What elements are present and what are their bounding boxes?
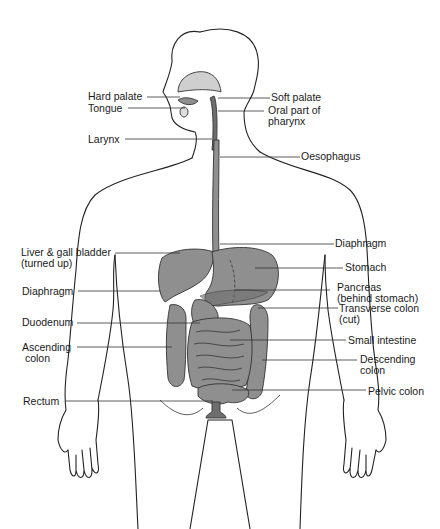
label-diaphragm-right: Diaphragm [335, 238, 386, 249]
label-small-intestine: Small intestine [348, 335, 416, 346]
label-oral-pharynx: Oral part of pharynx [268, 105, 321, 127]
ascending-colon [166, 305, 186, 387]
label-descending-colon: Descending colon [360, 354, 415, 376]
rectum [206, 402, 226, 418]
label-rectum: Rectum [23, 396, 59, 407]
label-pelvic-colon: Pelvic colon [368, 386, 424, 397]
label-larynx: Larynx [88, 134, 120, 145]
label-pancreas: Pancreas (behind stomach) [337, 282, 418, 304]
label-liver-gall-bladder: Liver & gall bladder (turned up) [21, 247, 111, 269]
label-duodenum: Duodenum [22, 317, 73, 328]
label-ascending-colon: Ascending colon [22, 342, 71, 364]
mouth-and-pharynx [178, 72, 221, 150]
small-intestine [188, 318, 253, 390]
label-oesophagus: Oesophagus [301, 151, 361, 162]
label-tongue: Tongue [88, 103, 122, 114]
label-transverse-colon: Transverse colon (cut) [339, 303, 419, 325]
label-hard-palate: Hard palate [88, 91, 142, 102]
label-diaphragm-left: Diaphragm [22, 286, 73, 297]
oesophagus [213, 140, 219, 255]
label-stomach: Stomach [345, 262, 386, 273]
label-soft-palate: Soft palate [271, 92, 321, 103]
